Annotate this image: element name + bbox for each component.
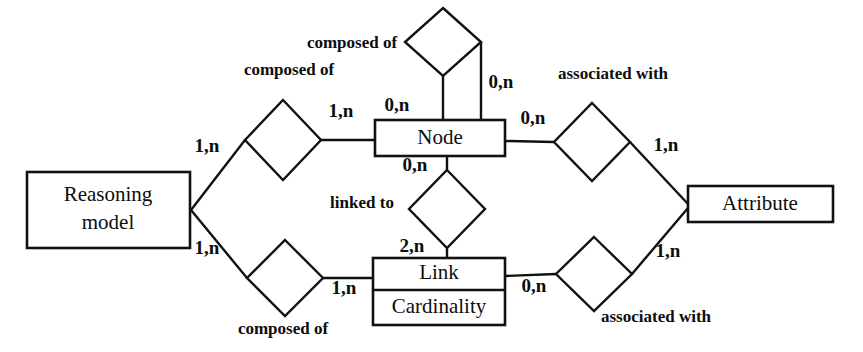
cardinality-node-composed-left: 0,n: [385, 94, 410, 115]
cardinality-node-assoc-right: 1,n: [654, 134, 679, 155]
cardinality-link-linked-bottom: 2,n: [400, 235, 425, 256]
cardinality-link-assoc-right: 1,n: [656, 240, 681, 261]
relationship-node-composed-of[interactable]: [405, 8, 481, 76]
entity-reasoning-model-label-line1: Reasoning: [64, 182, 153, 206]
cardinality-model-composed-link-right: 1,n: [332, 277, 357, 298]
relationship-model-composed-of-link[interactable]: [247, 240, 323, 316]
entity-link-label: Link: [419, 260, 459, 284]
cardinality-link-assoc-left: 0,n: [522, 275, 547, 296]
relationship-node-associated-with[interactable]: [554, 103, 630, 181]
entity-node-label: Node: [417, 125, 463, 149]
relationship-label-link-associated-with: associated with: [601, 307, 712, 326]
cardinality-node-linked-top: 0,n: [403, 154, 428, 175]
relationship-label-node-composed-of: composed of: [307, 33, 398, 52]
relationship-label-node-associated-with: associated with: [558, 64, 669, 83]
entity-reasoning-model-label-line2: model: [82, 210, 135, 234]
cardinality-node-assoc-left: 0,n: [521, 107, 546, 128]
relationship-label-model-composed-of-node: composed of: [244, 60, 335, 79]
entity-attribute-label: Attribute: [722, 191, 798, 215]
er-diagram-svg: Reasoning model Node Link Cardinality At…: [0, 0, 863, 352]
relationship-label-node-linked-to: linked to: [330, 193, 394, 212]
relationship-link-associated-with[interactable]: [556, 237, 632, 311]
cardinality-model-composed-node-right: 1,n: [329, 100, 354, 121]
er-diagram-canvas: Reasoning model Node Link Cardinality At…: [0, 0, 863, 352]
relationship-model-composed-of-node[interactable]: [245, 100, 321, 180]
relationship-label-model-composed-of-link: composed of: [238, 319, 329, 338]
cardinality-node-composed-right: 0,n: [489, 71, 514, 92]
connector-node-to-assoc: [505, 141, 554, 142]
cardinality-model-composed-node-left: 1,n: [195, 135, 220, 156]
entity-link-attribute-cardinality: Cardinality: [392, 294, 487, 318]
cardinality-model-composed-link-left: 1,n: [195, 237, 220, 258]
